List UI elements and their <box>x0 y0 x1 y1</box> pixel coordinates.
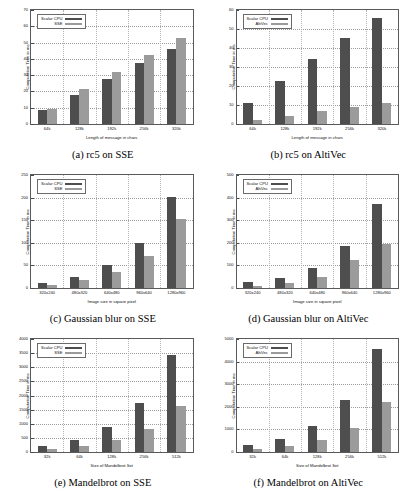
bar-simd <box>176 38 186 124</box>
bar-group <box>160 339 192 452</box>
y-tick-label: 0 <box>231 122 233 127</box>
bar-simd <box>144 256 154 288</box>
bar-simd <box>317 440 327 452</box>
bar-group <box>333 339 365 452</box>
plot-frame-c: 050100150200250320x240480x320640x480960x… <box>30 174 194 289</box>
y-tick-label: 0 <box>26 450 28 455</box>
y-tick-label: 100 <box>21 241 28 246</box>
y-tick-label: 0 <box>26 286 28 291</box>
bar-simd <box>79 89 89 124</box>
bar-simd <box>112 272 122 288</box>
y-tick-mark <box>31 288 34 289</box>
legend-item: AltiVec <box>247 351 288 356</box>
x-axis-title: Image size in square pixel <box>30 299 194 304</box>
legend-item: AltiVec <box>247 187 288 192</box>
legend-e: Scalar CPUSSE <box>37 343 86 358</box>
chart-d: Image size in square pixelComputation Ti… <box>206 165 411 329</box>
figure-panel-b: Length of message in charsComputation Ti… <box>206 0 411 165</box>
figure-caption-a: (a) rc5 on SSE <box>0 149 206 161</box>
bar-scalar <box>135 403 145 452</box>
bar-group <box>301 339 333 452</box>
figure-panel-a: Length of message in charsComputation Ti… <box>0 0 206 165</box>
y-tick-label: 100 <box>227 263 234 268</box>
y-tick-label: 50 <box>229 27 234 32</box>
y-tick-label: 500 <box>227 173 234 178</box>
bar-group <box>128 10 160 124</box>
figure-panel-f: Size of Mandelbrot SetComputation Time i… <box>206 329 411 493</box>
bar-simd <box>176 406 186 452</box>
bar-simd <box>253 120 263 124</box>
y-tick-mark <box>237 288 240 289</box>
figure-panel-e: Size of Mandelbrot SetComputation Time i… <box>0 329 206 493</box>
figure-panel-c: Image size in square pixelComputation Ti… <box>0 165 206 329</box>
y-tick-label: 3500 <box>19 351 28 356</box>
bar-scalar <box>70 277 80 288</box>
bar-group <box>366 10 398 124</box>
x-axis-title: Size of Mandelbrot Set <box>236 463 400 468</box>
legend-item: AltiVec <box>247 22 288 27</box>
legend-label: AltiVec <box>255 187 268 192</box>
bar-scalar <box>243 103 253 124</box>
figure-caption-c: (c) Gaussian blur on SSE <box>0 313 206 325</box>
x-tick-label: 32k <box>44 455 51 460</box>
plot-frame-d: 0100200300400500320x240480x320640x480960… <box>236 174 400 289</box>
y-tick-mark <box>31 452 34 453</box>
bar-scalar <box>243 445 253 452</box>
y-tick-label: 2000 <box>224 405 233 410</box>
bar-scalar <box>340 246 350 288</box>
plot-area-c: Image size in square pixelComputation Ti… <box>30 174 194 289</box>
legend-label: AltiVec <box>255 22 268 27</box>
y-tick-mark <box>237 452 240 453</box>
bar-group <box>333 175 365 288</box>
bar-simd <box>317 277 327 288</box>
y-tick-label: 20 <box>229 84 234 89</box>
y-tick-label: 4000 <box>19 337 28 342</box>
plot-area-b: Length of message in charsComputation Ti… <box>236 9 400 125</box>
x-axis-title: Length of message in chars <box>236 135 400 140</box>
x-tick-label: 1280x960 <box>373 291 391 296</box>
bar-simd <box>112 72 122 124</box>
x-tick-label: 1280x960 <box>167 291 185 296</box>
bar-simd <box>79 446 89 452</box>
bar-scalar <box>167 49 177 124</box>
bar-scalar <box>135 243 145 288</box>
legend-swatch-icon <box>271 188 288 191</box>
bar-scalar <box>135 63 145 124</box>
bar-simd <box>285 116 295 124</box>
bar-simd <box>253 449 263 452</box>
plot-frame-a: 01020304050607064k128k192k256k320kScalar… <box>30 9 194 125</box>
legend-c: Scalar CPUSSE <box>37 179 86 194</box>
figure-sheet: Length of message in charsComputation Ti… <box>0 0 411 493</box>
y-tick-label: 30 <box>229 65 234 70</box>
y-tick-label: 70 <box>23 8 28 13</box>
bar-simd <box>79 280 89 288</box>
y-tick-label: 20 <box>23 89 28 94</box>
x-tick-label: 960x640 <box>136 291 152 296</box>
bar-simd <box>253 286 263 288</box>
figure-panel-d: Image size in square pixelComputation Ti… <box>206 165 411 329</box>
y-tick-label: 400 <box>227 195 234 200</box>
legend-swatch-icon <box>65 18 82 21</box>
legend-a: Scalar CPUSSE <box>37 14 86 29</box>
y-tick-label: 0 <box>231 450 233 455</box>
legend-swatch-icon <box>271 352 288 355</box>
legend-swatch-icon <box>65 188 82 191</box>
bar-scalar <box>340 38 350 124</box>
x-tick-label: 32k <box>249 455 256 460</box>
x-tick-label: 640x480 <box>309 291 325 296</box>
legend-swatch-icon <box>65 23 82 26</box>
y-tick-label: 2500 <box>19 379 28 384</box>
figure-caption-f: (f) Mandelbrot on AltiVec <box>206 477 411 489</box>
y-tick-label: 30 <box>23 73 28 78</box>
bar-scalar <box>102 427 112 452</box>
x-tick-label: 256k <box>140 455 149 460</box>
x-tick-label: 128k <box>280 127 289 132</box>
legend-swatch-icon <box>271 347 288 350</box>
bar-group <box>160 10 192 124</box>
legend-swatch-icon <box>271 23 288 26</box>
x-axis-title: Image size in square pixel <box>236 299 400 304</box>
y-tick-label: 2000 <box>19 393 28 398</box>
x-tick-label: 256k <box>345 455 354 460</box>
legend-swatch-icon <box>65 352 82 355</box>
bar-scalar <box>308 268 318 288</box>
